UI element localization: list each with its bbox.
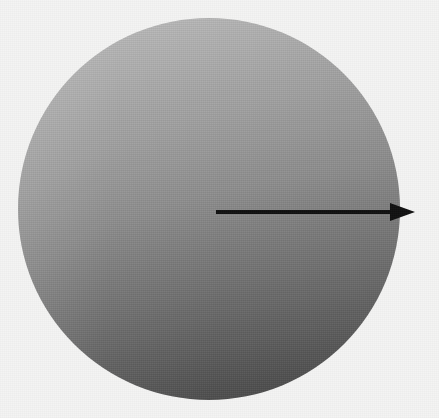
arrowhead-icon: [390, 203, 415, 221]
figure-canvas: 0 100: [0, 0, 439, 418]
scale-arrow-group: [0, 0, 439, 418]
